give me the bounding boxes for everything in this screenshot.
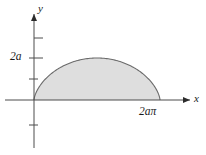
y-axis-arrowhead xyxy=(31,14,37,21)
y-tick-label-2a: 2a xyxy=(10,51,22,63)
x-tick-label-2api: 2aπ xyxy=(139,106,156,118)
x-axis-arrowhead xyxy=(183,97,190,103)
y-axis-label: y xyxy=(38,3,43,14)
cycloid-arch-figure: y x 2a 2aπ xyxy=(0,0,206,155)
plot-canvas xyxy=(0,0,206,155)
cycloid-region-fill xyxy=(34,58,160,100)
x-axis-label: x xyxy=(194,93,199,104)
